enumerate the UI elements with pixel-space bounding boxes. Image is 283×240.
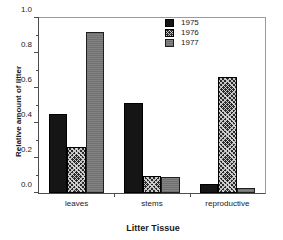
y-axis-tick (34, 192, 39, 193)
legend-item-1975: 1975 (165, 19, 199, 27)
bar-reproductive-1975 (200, 184, 219, 193)
y-axis-tick-label: 1.0 (21, 5, 32, 14)
x-axis-tick (114, 193, 115, 197)
y-axis-tick-label: 0.0 (21, 180, 32, 189)
y-axis-minor-tick (36, 70, 39, 71)
bar-reproductive-1976 (218, 77, 237, 193)
legend-item-1976: 1976 (165, 29, 199, 37)
x-axis-tick (190, 193, 191, 197)
y-axis-tick-label: 0.8 (21, 40, 32, 49)
y-axis-minor-tick (36, 105, 39, 106)
bar-chart-figure: Relative amount of litter 0.00.20.40.60.… (0, 0, 283, 240)
legend-label: 1976 (181, 29, 199, 37)
bar-stems-1975 (124, 103, 143, 193)
x-axis-category-label: leaves (65, 199, 88, 208)
y-axis-tick-label: 0.2 (21, 145, 32, 154)
legend-label: 1975 (181, 19, 199, 27)
legend-swatch-icon (165, 39, 174, 47)
x-axis-title: Litter Tissue (30, 223, 276, 233)
plot-area: 0.00.20.40.60.81.0leavesstemsreproductiv… (38, 17, 266, 194)
bar-reproductive-1977 (237, 188, 256, 193)
bar-stems-1977 (161, 177, 180, 193)
bar-leaves-1975 (49, 114, 68, 193)
y-axis-tick (34, 52, 39, 53)
y-axis-minor-tick (36, 140, 39, 141)
x-axis-category-label: stems (141, 199, 162, 208)
bar-leaves-1976 (67, 147, 86, 193)
y-axis-tick (34, 17, 39, 18)
y-axis-minor-tick (36, 35, 39, 36)
legend-swatch-icon (165, 19, 174, 27)
y-axis-tick-label: 0.4 (21, 110, 32, 119)
bar-leaves-1977 (86, 32, 105, 193)
y-axis-tick-label: 0.6 (21, 75, 32, 84)
legend-swatch-icon (165, 29, 174, 37)
y-axis-tick (34, 87, 39, 88)
y-axis-minor-tick (36, 175, 39, 176)
bars-container (39, 18, 265, 193)
chart-legend: 197519761977 (163, 17, 201, 49)
y-axis-tick (34, 157, 39, 158)
legend-label: 1977 (181, 39, 199, 47)
bar-stems-1976 (143, 176, 162, 194)
legend-item-1977: 1977 (165, 39, 199, 47)
x-axis-category-label: reproductive (205, 199, 249, 208)
y-axis-tick (34, 122, 39, 123)
